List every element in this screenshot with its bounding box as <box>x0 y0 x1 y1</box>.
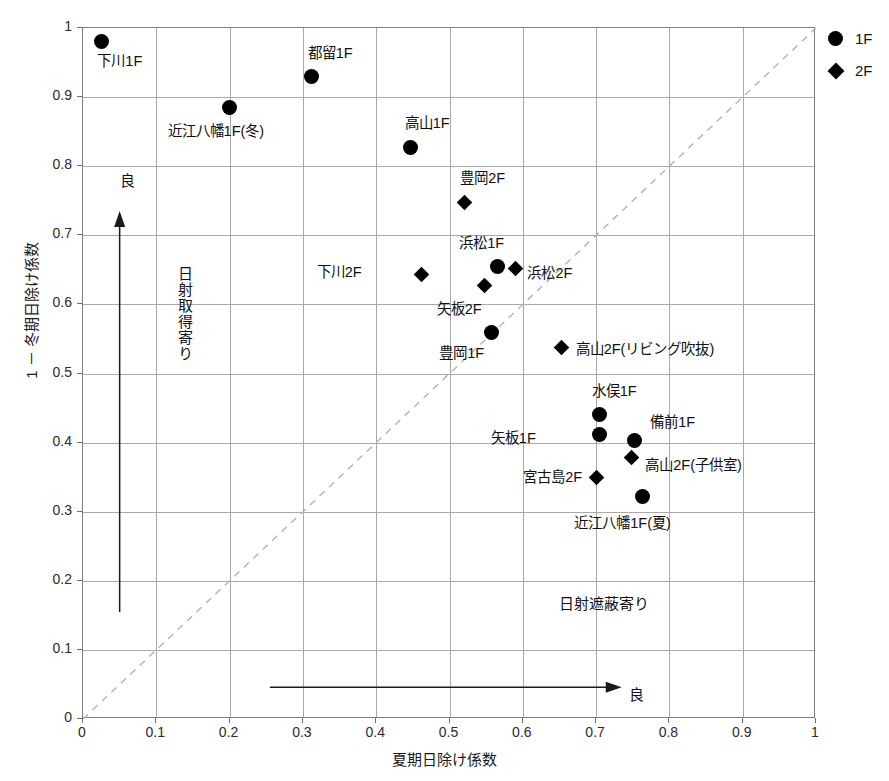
gridline-vertical <box>669 28 670 717</box>
data-point-label: 高山1F <box>405 116 450 131</box>
data-point-label: 高山2F(リビング吹抜) <box>576 342 715 357</box>
gridline-vertical <box>596 28 597 717</box>
data-point-marker <box>592 407 607 422</box>
gridline-horizontal <box>83 374 814 375</box>
x-tick-label: 0 <box>62 724 102 740</box>
legend-item-label: 2F <box>855 62 873 79</box>
x-tick-mark <box>595 718 596 723</box>
circle-marker-icon <box>826 28 846 48</box>
x-tick-mark <box>82 718 83 723</box>
diamond-marker-icon <box>826 60 846 80</box>
x-tick-label: 0.2 <box>209 724 249 740</box>
data-point-label: 浜松1F <box>459 236 504 251</box>
data-point-label: 下川2F <box>317 265 362 280</box>
annotation-good-right: 良 <box>629 687 644 702</box>
data-point-marker <box>477 278 493 294</box>
y-tick-label: 0.9 <box>22 87 72 103</box>
plot-area: 良良日射取得寄り日射遮蔽寄り 下川1F近江八幡1F(冬)都留1F高山1F浜松1F… <box>82 27 815 718</box>
data-point-marker <box>592 427 607 442</box>
data-point-marker <box>456 194 472 210</box>
x-tick-label: 0.9 <box>722 724 762 740</box>
gridline-horizontal <box>83 235 814 236</box>
gridline-vertical <box>523 28 524 717</box>
data-point-label: 宮古島2F <box>523 470 582 485</box>
x-tick-label: 0.1 <box>135 724 175 740</box>
data-point-label: 高山2F(子供室) <box>645 458 742 473</box>
x-tick-label: 0.7 <box>575 724 615 740</box>
legend-item-label: 1F <box>855 30 873 47</box>
data-point-marker <box>627 433 642 448</box>
x-tick-mark <box>815 718 816 723</box>
x-tick-mark <box>668 718 669 723</box>
data-point-marker <box>403 140 418 155</box>
gridline-horizontal <box>83 650 814 651</box>
annotation-solar-gain: 日射取得寄り <box>177 266 192 362</box>
x-tick-label: 1 <box>795 724 835 740</box>
y-tick-label: 1 <box>22 18 72 34</box>
gridline-vertical <box>376 28 377 717</box>
data-point-marker <box>304 69 319 84</box>
x-tick-mark <box>522 718 523 723</box>
x-axis-title: 夏期日除け係数 <box>0 748 889 769</box>
y-tick-label: 0.7 <box>22 225 72 241</box>
y-tick-label: 0 <box>22 709 72 725</box>
data-point-label: 近江八幡1F(夏) <box>574 516 671 531</box>
data-point-marker <box>414 267 430 283</box>
data-point-label: 豊岡2F <box>460 171 505 186</box>
data-point-label: 備前1F <box>650 415 695 430</box>
gridline-horizontal <box>83 97 814 98</box>
x-tick-label: 0.6 <box>502 724 542 740</box>
data-point-marker <box>508 261 524 277</box>
legend: 1F2F <box>826 22 886 86</box>
gridline-vertical <box>450 28 451 717</box>
data-point-marker <box>554 340 570 356</box>
gridline-horizontal <box>83 443 814 444</box>
annotation-solar-shade: 日射遮蔽寄り <box>559 596 649 611</box>
gridline-vertical <box>743 28 744 717</box>
gridline-vertical <box>156 28 157 717</box>
x-tick-label: 0.3 <box>282 724 322 740</box>
data-point-marker <box>222 100 237 115</box>
y-tick-label: 0.8 <box>22 156 72 172</box>
y-tick-label: 0.5 <box>22 364 72 380</box>
x-tick-mark <box>155 718 156 723</box>
data-point-label: 水俣1F <box>592 384 637 399</box>
gridline-horizontal <box>83 166 814 167</box>
data-point-label: 矢板2F <box>437 302 482 317</box>
x-tick-mark <box>742 718 743 723</box>
chart-root: 1 － 冬期日除け係数 00.10.20.30.40.50.60.70.80.9… <box>0 0 889 781</box>
x-tick-label: 0.4 <box>355 724 395 740</box>
data-point-marker <box>484 325 499 340</box>
x-tick-mark <box>302 718 303 723</box>
y-tick-label: 0.1 <box>22 640 72 656</box>
gridline-horizontal <box>83 581 814 582</box>
x-tick-mark <box>229 718 230 723</box>
legend-item-1f[interactable]: 1F <box>826 22 886 54</box>
data-point-label: 豊岡1F <box>439 346 484 361</box>
gridline-vertical <box>303 28 304 717</box>
y-tick-label: 0.2 <box>22 571 72 587</box>
x-tick-label: 0.5 <box>429 724 469 740</box>
x-tick-label: 0.8 <box>648 724 688 740</box>
y-tick-label: 0.4 <box>22 433 72 449</box>
data-point-marker <box>490 259 505 274</box>
data-point-marker <box>588 469 604 485</box>
data-point-label: 近江八幡1F(冬) <box>168 124 265 139</box>
annotation-good-up: 良 <box>120 173 135 188</box>
legend-item-2f[interactable]: 2F <box>826 54 886 86</box>
data-point-label: 下川1F <box>97 54 142 69</box>
y-tick-label: 0.6 <box>22 294 72 310</box>
data-point-marker <box>635 489 650 504</box>
data-point-marker <box>94 34 109 49</box>
x-tick-mark <box>375 718 376 723</box>
y-tick-label: 0.3 <box>22 502 72 518</box>
data-point-label: 矢板1F <box>491 431 536 446</box>
gridline-horizontal <box>83 512 814 513</box>
data-point-label: 浜松2F <box>527 266 572 281</box>
data-point-label: 都留1F <box>308 46 353 61</box>
x-tick-mark <box>449 718 450 723</box>
data-point-marker <box>624 450 640 466</box>
